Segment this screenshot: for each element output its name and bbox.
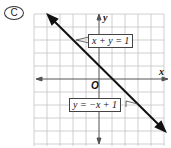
origin-label: O [91,80,99,91]
equation-label-slope-intercept: y = −x + 1 [69,98,121,112]
y-axis-label: y [103,12,107,23]
line-y-equals-neg-x-plus-1 [48,15,165,131]
coordinate-graph [0,0,171,148]
equation-label-standard: x + y = 1 [88,34,133,48]
x-axis-label: x [159,66,164,77]
